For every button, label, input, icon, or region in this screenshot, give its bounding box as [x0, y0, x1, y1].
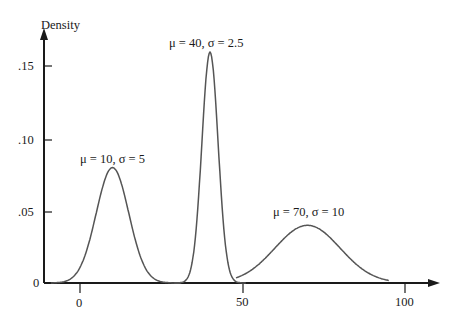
- y-ticks: [44, 66, 52, 212]
- y-axis-label: Density: [41, 19, 80, 32]
- y-tick-label-005: .05: [18, 206, 34, 219]
- density-curves: [51, 52, 389, 283]
- annotation-mu70-sigma10: μ = 70, σ = 10: [273, 206, 344, 219]
- x-tick-label-50: 50: [236, 296, 249, 309]
- y-tick-label-0: 0: [33, 277, 39, 290]
- annotation-mu40-sigma2-5: μ = 40, σ = 2.5: [169, 37, 243, 50]
- x-ticks: [80, 283, 405, 293]
- y-tick-label-010: .10: [18, 134, 34, 147]
- x-tick-label-0: 0: [76, 297, 82, 310]
- x-tick-label-100: 100: [395, 296, 414, 309]
- y-tick-label-015: .15: [18, 60, 34, 73]
- annotation-mu10-sigma5: μ = 10, σ = 5: [80, 153, 145, 166]
- x-axis-arrow-icon: [428, 279, 440, 287]
- density-curve-2: [174, 52, 246, 283]
- density-curve-1: [51, 168, 181, 283]
- density-curve-3: [236, 225, 389, 280]
